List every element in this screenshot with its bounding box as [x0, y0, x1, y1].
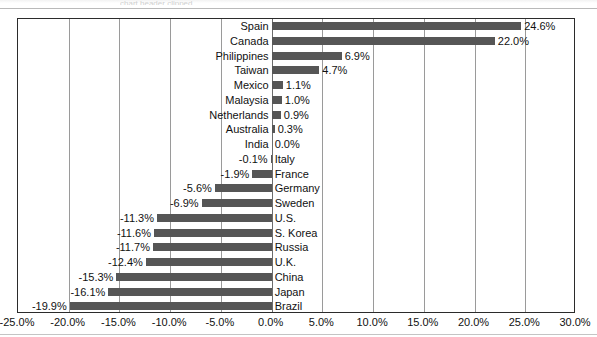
category-label: India [18, 137, 269, 152]
bar-row: Germany-5.6% [18, 181, 574, 196]
category-label: Germany [275, 181, 320, 196]
category-label: France [275, 167, 309, 182]
bar-chart: Spain24.6%Canada22.0%Philippines6.9%Taiw… [0, 9, 597, 337]
value-label: 24.6% [524, 19, 555, 34]
category-label: Australia [18, 122, 269, 137]
bar [272, 66, 320, 74]
x-axis-tick-labels: -25.0%-20.0%-15.0%-10.0%-5.0%0.0%5.0%10.… [0, 315, 597, 333]
value-label: 6.9% [345, 49, 370, 64]
bar [252, 170, 271, 178]
bar-row: Russia-11.7% [18, 240, 574, 255]
category-label: Italy [275, 152, 295, 167]
bar-row: Spain24.6% [18, 19, 574, 34]
x-tick-label: -5.0% [206, 315, 235, 329]
bar [146, 258, 272, 266]
bar [116, 273, 271, 281]
bar-row: Brazil-19.9% [18, 299, 574, 314]
value-label: 0.0% [275, 137, 300, 152]
header-gray-band [0, 0, 597, 3]
category-label: Malaysia [18, 93, 269, 108]
bar-row: Australia0.3% [18, 122, 574, 137]
value-label: 4.7% [322, 63, 347, 78]
bar [272, 125, 275, 133]
x-tick-label: -15.0% [101, 315, 136, 329]
bar [272, 22, 522, 30]
bar [272, 96, 282, 104]
value-label: -11.7% [18, 240, 150, 255]
category-label: Mexico [18, 78, 269, 93]
value-label: 0.3% [278, 122, 303, 137]
category-label: Taiwan [18, 63, 269, 78]
value-label: -5.6% [18, 181, 212, 196]
value-label: 0.9% [284, 108, 309, 123]
bottom-divider-rule [0, 334, 597, 335]
bar [154, 229, 272, 237]
bar [108, 288, 271, 296]
x-tick-label: 30.0% [559, 315, 590, 329]
bar [272, 81, 283, 89]
category-label: Philippines [18, 49, 269, 64]
bar [271, 155, 272, 163]
category-label: China [275, 270, 304, 285]
bar-row: Canada22.0% [18, 34, 574, 49]
x-tick-label: 25.0% [509, 315, 540, 329]
bar [157, 214, 272, 222]
bar-row: S. Korea-11.6% [18, 226, 574, 241]
bar-row: Sweden-6.9% [18, 196, 574, 211]
bar-row: U.S.-11.3% [18, 211, 574, 226]
plot-area: Spain24.6%Canada22.0%Philippines6.9%Taiw… [17, 18, 575, 313]
value-label: -19.9% [18, 299, 67, 314]
bar [272, 111, 281, 119]
bar-row: Philippines6.9% [18, 49, 574, 64]
category-label: Canada [18, 34, 269, 49]
bar [272, 52, 342, 60]
category-label: Japan [275, 285, 305, 300]
bar-row: U.K.-12.4% [18, 255, 574, 270]
x-tick-label: 0.0% [258, 315, 283, 329]
category-label: Sweden [275, 196, 315, 211]
bar [272, 37, 495, 45]
x-tick-label: 20.0% [458, 315, 489, 329]
category-label: Brazil [275, 299, 303, 314]
bar-row: Taiwan4.7% [18, 63, 574, 78]
bar-row: Japan-16.1% [18, 285, 574, 300]
bar [70, 302, 272, 310]
bar [153, 243, 272, 251]
category-label: Spain [18, 19, 269, 34]
x-tick-label: -20.0% [50, 315, 85, 329]
bar-row: China-15.3% [18, 270, 574, 285]
bar-row: Netherlands0.9% [18, 108, 574, 123]
bar [202, 199, 272, 207]
value-label: 22.0% [498, 34, 529, 49]
clipped-header-strip: chart header clipped [0, 0, 597, 9]
value-label: -12.4% [18, 255, 143, 270]
x-tick-label: 5.0% [309, 315, 334, 329]
x-tick-label: 15.0% [407, 315, 438, 329]
bar-row: India0.0% [18, 137, 574, 152]
bar-row: France-1.9% [18, 167, 574, 182]
x-tick-label: -25.0% [0, 315, 34, 329]
value-label: -1.9% [18, 167, 249, 182]
value-label: -6.9% [18, 196, 199, 211]
x-tick-label: -10.0% [152, 315, 187, 329]
value-label: -11.3% [18, 211, 154, 226]
value-label: -11.6% [18, 226, 151, 241]
clipped-header-text: chart header clipped [120, 0, 193, 5]
value-label: -16.1% [18, 285, 105, 300]
bar-row: Mexico1.1% [18, 78, 574, 93]
value-label: -15.3% [18, 270, 113, 285]
category-label: U.S. [275, 211, 296, 226]
x-tick-label: 10.0% [356, 315, 387, 329]
category-label: S. Korea [275, 226, 318, 241]
value-label: 1.1% [286, 78, 311, 93]
category-label: Russia [275, 240, 309, 255]
bar-row: Malaysia1.0% [18, 93, 574, 108]
value-label: 1.0% [285, 93, 310, 108]
bar-row: Italy-0.1% [18, 152, 574, 167]
category-label: Netherlands [18, 108, 269, 123]
category-label: U.K. [275, 255, 296, 270]
bar [215, 184, 272, 192]
value-label: -0.1% [18, 152, 268, 167]
